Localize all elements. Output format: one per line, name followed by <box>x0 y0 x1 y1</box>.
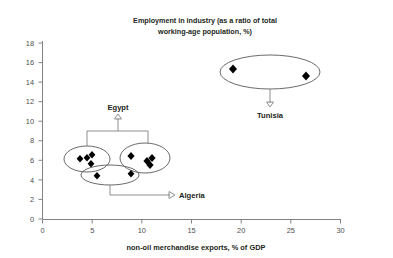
egypt-label: Egypt <box>107 103 129 112</box>
data-point <box>94 172 101 180</box>
y-tick-0: 0 <box>30 215 34 224</box>
data-point <box>127 152 134 160</box>
algeria-label: Algeria <box>179 191 206 200</box>
x-tick-20: 20 <box>237 226 245 235</box>
x-tick-25: 25 <box>287 226 295 235</box>
y-tick-2: 2 <box>30 195 34 204</box>
x-tick-0: 0 <box>40 226 44 235</box>
y-tick-18: 18 <box>26 39 34 48</box>
x-axis-title: non-oil merchandise exports, % of GDP <box>127 243 266 252</box>
x-tick-15: 15 <box>187 226 195 235</box>
x-tick-30: 30 <box>336 226 344 235</box>
egypt-left-group <box>64 146 110 172</box>
egypt-right-group <box>120 143 170 173</box>
y-tick-4: 4 <box>30 176 34 185</box>
y-tick-8: 8 <box>30 136 34 145</box>
scatter-plot-svg: Employment in industry (as a ratio of to… <box>0 0 393 258</box>
chart-title-line1: Employment in industry (as a ratio of to… <box>133 16 277 25</box>
egypt-right-ellipse <box>120 143 170 173</box>
y-tick-6: 6 <box>30 156 34 165</box>
tunisia-group: Tunisia <box>220 55 320 120</box>
y-tick-16: 16 <box>26 58 34 67</box>
chart-figure: Employment in industry (as a ratio of to… <box>0 0 393 258</box>
y-tick-10: 10 <box>26 117 34 126</box>
x-tick-5: 5 <box>90 226 94 235</box>
x-axis: 0 5 10 15 20 25 30 <box>40 220 344 235</box>
y-tick-12: 12 <box>26 97 34 106</box>
data-point <box>229 65 237 74</box>
x-tick-10: 10 <box>138 226 146 235</box>
data-point <box>77 155 84 163</box>
egypt-annotation: Egypt <box>87 103 148 146</box>
y-axis: 18 16 14 12 10 8 6 4 2 0 <box>26 39 43 224</box>
tunisia-label: Tunisia <box>257 111 284 120</box>
y-tick-14: 14 <box>26 78 34 87</box>
chart-title-line2: working-age population, %) <box>157 27 252 36</box>
tunisia-ellipse <box>220 55 320 89</box>
data-point <box>302 72 310 81</box>
